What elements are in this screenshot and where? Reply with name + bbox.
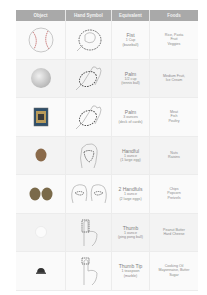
two-handfuls-icon xyxy=(69,181,109,207)
baseball-icon xyxy=(28,27,54,53)
equivalent-example: (deck of cards) xyxy=(119,120,143,125)
hand-symbol-cell xyxy=(66,60,112,98)
table-row: Palm 1/2 cup (tennis ball) Medium Fruit,… xyxy=(16,60,198,99)
object-cell xyxy=(16,21,66,59)
hand-symbol-cell xyxy=(66,137,112,175)
foods-cell: Nuts Raisins xyxy=(150,137,198,175)
table-row: Thumb 1 ounce (ping pong ball) Peanut Bu… xyxy=(16,214,198,253)
table-row: Palm 3 ounces (deck of cards) Meat Fish … xyxy=(16,98,198,137)
equivalent-example: (ping pong ball) xyxy=(118,235,143,240)
equivalent-example: (tennis ball) xyxy=(121,81,140,86)
header-hand-symbol: Hand Symbol xyxy=(66,10,112,21)
hand-symbol-cell xyxy=(66,214,112,252)
table-header: Object Hand Symbol Equivalent Foods xyxy=(16,10,198,21)
two-eggs-icon xyxy=(27,186,55,202)
equivalent-cell: Thumb 1 ounce (ping pong ball) xyxy=(112,214,150,252)
food-item: Poultry xyxy=(168,119,179,124)
food-item: Pretzels xyxy=(168,196,181,201)
object-cell xyxy=(16,175,66,213)
food-item: Sugar xyxy=(169,273,179,278)
egg-icon xyxy=(34,147,48,163)
palm-icon xyxy=(73,102,105,132)
table-row: 2 Handfuls 1 ounce (2 large eggs) Chips … xyxy=(16,175,198,214)
hand-symbol-cell xyxy=(66,21,112,59)
table-body: Fist 1 Cup (baseball) Rice, Pasta Fruit … xyxy=(16,21,198,291)
object-cell xyxy=(16,137,66,175)
equivalent-example: (baseball) xyxy=(123,43,139,48)
equivalent-cell: Fist 1 Cup (baseball) xyxy=(112,21,150,59)
food-item: Raisins xyxy=(168,155,180,160)
table-row: Handful 1 ounce (1 large egg) Nuts Raisi… xyxy=(16,137,198,176)
tennis-ball-icon xyxy=(29,66,53,90)
hand-symbol-cell xyxy=(66,252,112,290)
foods-cell: Cooking Oil Mayonnaise, Butter Sugar xyxy=(150,252,198,290)
portion-size-table: Object Hand Symbol Equivalent Foods xyxy=(16,10,198,291)
table-row: Thumb Tip 1 teaspoon (marble) Cooking Oi… xyxy=(16,252,198,291)
object-cell xyxy=(16,98,66,136)
equivalent-cell: Palm 1/2 cup (tennis ball) xyxy=(112,60,150,98)
equivalent-cell: Palm 3 ounces (deck of cards) xyxy=(112,98,150,136)
equivalent-example: (2 large eggs) xyxy=(119,197,141,202)
food-item: Veggies xyxy=(168,42,181,47)
foods-cell: Rice, Pasta Fruit Veggies xyxy=(150,21,198,59)
marble-icon xyxy=(35,266,47,276)
object-cell xyxy=(16,252,66,290)
foods-cell: Peanut Butter Hard Cheese xyxy=(150,214,198,252)
foods-cell: Chips Popcorn Pretzels xyxy=(150,175,198,213)
equivalent-example: (1 large egg) xyxy=(120,158,140,163)
foods-cell: Medium Fruit, Ice Cream xyxy=(150,60,198,98)
palm-icon xyxy=(73,63,105,93)
equivalent-cell: Handful 1 ounce (1 large egg) xyxy=(112,137,150,175)
header-foods: Foods xyxy=(150,10,198,21)
equivalent-cell: Thumb Tip 1 teaspoon (marble) xyxy=(112,252,150,290)
hand-symbol-cell xyxy=(66,175,112,213)
handful-icon xyxy=(76,140,102,170)
object-cell xyxy=(16,214,66,252)
table-row: Fist 1 Cup (baseball) Rice, Pasta Fruit … xyxy=(16,21,198,60)
header-equivalent: Equivalent xyxy=(112,10,150,21)
foods-cell: Meat Fish Poultry xyxy=(150,98,198,136)
thumb-tip-icon xyxy=(76,255,102,287)
fist-icon xyxy=(73,25,105,55)
header-object: Object xyxy=(16,10,66,21)
deck-of-cards-icon xyxy=(33,107,49,127)
hand-symbol-cell xyxy=(66,98,112,136)
equivalent-cell: 2 Handfuls 1 ounce (2 large eggs) xyxy=(112,175,150,213)
thumb-icon xyxy=(76,216,102,248)
food-item: Ice Cream xyxy=(166,78,183,83)
equivalent-example: (marble) xyxy=(124,274,137,279)
food-item: Hard Cheese xyxy=(163,232,184,237)
ping-pong-ball-icon xyxy=(34,225,48,239)
object-cell xyxy=(16,60,66,98)
